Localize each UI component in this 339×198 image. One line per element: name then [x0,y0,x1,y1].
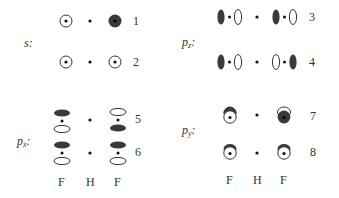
atom-label-f-left: F [58,176,65,188]
pz-orbital-filled-left-icon [217,10,241,25]
py-orbital-open-front-icon [224,144,237,159]
px-orbital-filled-top-icon [110,141,126,164]
pz-row-3 [217,10,296,25]
py-orbital-open-front-icon [278,144,291,159]
pz-orbital-filled-left-icon [217,55,241,70]
px-row-5 [54,108,126,132]
s-row-2 [60,56,121,68]
s-orbital-open-icon [60,15,72,27]
atom-label-f-left: F [226,174,233,186]
py-row-8 [224,144,291,159]
h-atom-dot-icon [88,151,91,154]
h-atom-dot-icon [88,118,91,121]
h-atom-dot-icon [88,19,91,22]
pz-row-4 [217,55,296,70]
row-number-2: 2 [133,56,139,68]
h-atom-dot-icon [255,15,258,18]
s-orbital-open-icon [109,56,121,68]
section-label-px: px: [17,135,31,149]
h-atom-dot-icon [88,60,91,63]
s-orbital-open-icon [60,56,72,68]
px-orbital-filled-top-icon [54,141,70,164]
atom-label-f-right: F [280,174,287,186]
h-atom-dot-icon [255,113,258,116]
section-label-py: py: [182,124,196,138]
py-orbital-filled-front-icon [278,107,291,123]
px-orbital-filled-top-icon [54,109,70,132]
s-orbital-filled-icon [109,15,122,28]
row-number-3: 3 [309,11,315,23]
pz-orbital-filled-left-icon [272,10,296,25]
row-number-5: 5 [135,113,141,125]
section-label-s: s: [24,37,33,49]
py-row-7 [224,107,291,124]
pz-orbital-filled-right-icon [272,55,296,70]
row-number-6: 6 [135,146,141,158]
px-orbital-filled-bottom-icon [110,108,126,131]
atom-label-h: H [253,174,262,186]
atom-label-f-right: F [114,176,121,188]
px-row-6 [54,141,126,164]
section-label-pz: pz: [182,36,195,50]
py-orbital-open-front-icon [224,107,237,124]
row-number-4: 4 [309,56,315,68]
h-atom-dot-icon [255,151,258,154]
row-number-8: 8 [310,146,316,158]
row-number-7: 7 [310,110,316,122]
atom-label-h: H [86,176,95,188]
row-number-1: 1 [133,15,139,27]
s-row-1 [60,15,122,28]
h-atom-dot-icon [255,60,258,63]
orbital-diagram-canvas [0,0,339,198]
